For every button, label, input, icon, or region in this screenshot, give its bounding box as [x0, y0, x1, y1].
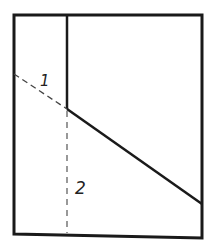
diagonal-solid-line: [67, 109, 202, 204]
diagram-canvas: 1 2: [0, 0, 214, 252]
region-label-1: 1: [40, 72, 50, 90]
outer-frame: [14, 15, 202, 238]
region-label-2: 2: [75, 178, 86, 198]
